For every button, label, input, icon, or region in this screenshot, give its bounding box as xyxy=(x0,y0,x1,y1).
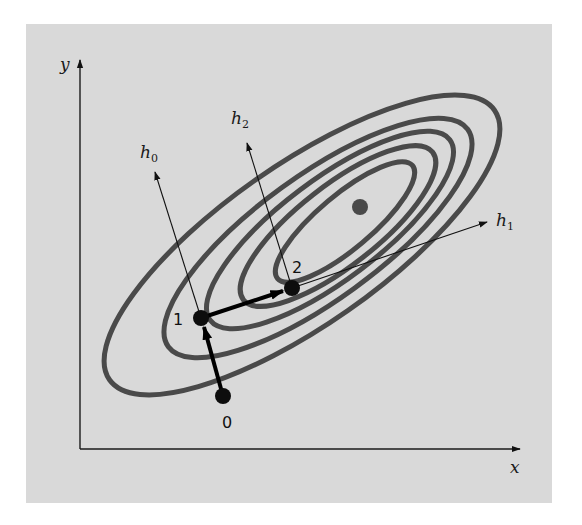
point-0-label: 0 xyxy=(222,413,232,432)
x-axis-label: x xyxy=(510,457,520,477)
y-axis-label: y xyxy=(59,54,70,74)
optimum-point xyxy=(352,199,368,215)
point-2-label: 2 xyxy=(292,258,302,277)
point-1-label: 1 xyxy=(173,310,183,329)
point-0 xyxy=(215,388,231,404)
point-2 xyxy=(284,280,300,296)
point-1 xyxy=(193,310,209,326)
conjugate-direction-diagram: y x h0 h2 h1 0 1 2 xyxy=(0,0,582,525)
